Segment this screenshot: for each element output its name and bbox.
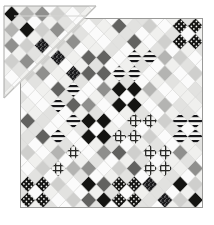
quilt-canvas: [0, 0, 214, 225]
quilt-photograph: [0, 0, 214, 225]
